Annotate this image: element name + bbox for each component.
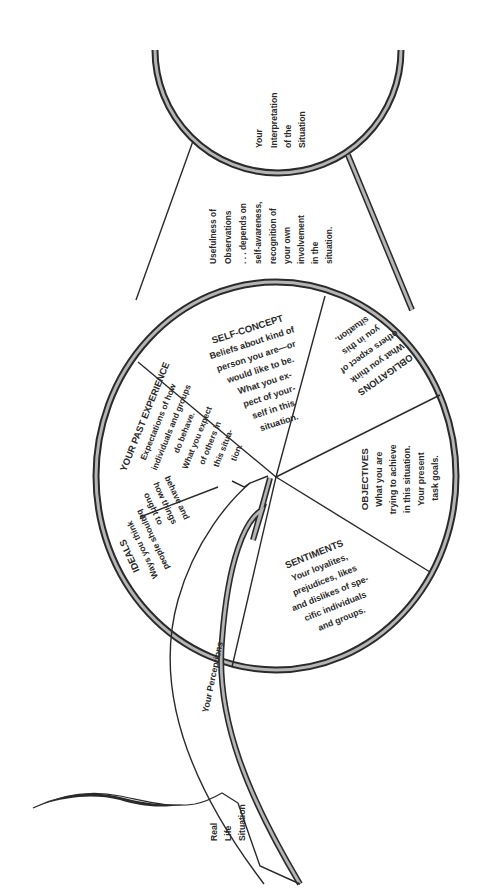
funnel-line-left xyxy=(136,141,193,300)
segment-objectives: OBJECTIVES What you are trying to achiev… xyxy=(359,442,440,514)
svg-text:Usefulness of Observatio: Usefulness of Observations . . . depends… xyxy=(208,199,334,264)
usefulness-label: Usefulness of Observations . . . depends… xyxy=(208,199,334,264)
svg-text:SENTIMENTS Your loyalite: SENTIMENTS Your loyalites, prejudices, l… xyxy=(274,533,382,640)
perception-diagram: Your Interpretation of the Situation Use… xyxy=(0,0,492,896)
svg-text:Your Interpretation: Your Interpretation of the Situation xyxy=(254,90,307,148)
interpretation-label: Your Interpretation of the Situation xyxy=(254,90,307,148)
svg-text:OBJECTIVES What you are: OBJECTIVES What you are trying to achiev… xyxy=(359,442,440,514)
perceptions-arrow xyxy=(170,476,300,884)
segment-sentiments: SENTIMENTS Your loyalites, prejudices, l… xyxy=(274,533,382,640)
svg-text:OBLIGATIONS What you thi: OBLIGATIONS What you think others expect… xyxy=(321,305,417,400)
segment-obligations: OBLIGATIONS What you think others expect… xyxy=(321,305,417,400)
funnel-line-right xyxy=(348,155,412,310)
